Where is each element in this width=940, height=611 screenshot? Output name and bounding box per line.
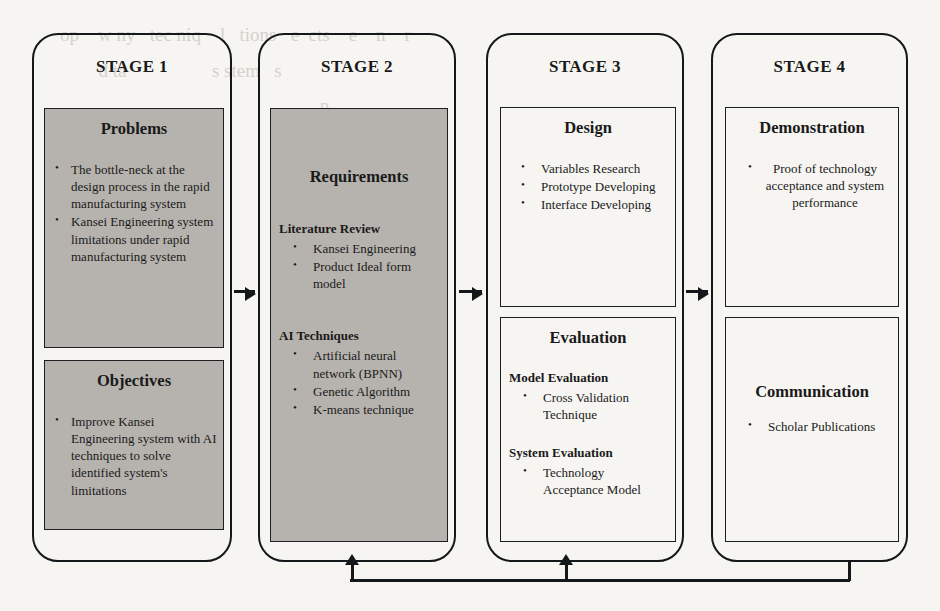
model-evaluation-list: Cross Validation Technique (509, 389, 667, 423)
design-bullet-list: Variables Research Prototype Developing … (507, 160, 669, 213)
evaluation-title: Evaluation (509, 328, 667, 348)
list-item: Variables Research (507, 160, 669, 177)
demonstration-box[interactable]: Demonstration Proof of technology accept… (725, 107, 899, 307)
design-box[interactable]: Design Variables Research Prototype Deve… (500, 107, 676, 307)
list-item: Proof of technology acceptance and syste… (734, 160, 890, 211)
problems-bullet-list: The bottle-neck at the design process in… (51, 161, 217, 265)
objectives-bullet-list: Improve Kansei Engineering system with A… (51, 413, 217, 499)
objectives-title: Objectives (51, 371, 217, 391)
list-item: Scholar Publications (734, 418, 890, 435)
list-item: The bottle-neck at the design process in… (51, 161, 217, 212)
list-item: Interface Developing (507, 196, 669, 213)
literature-review-list: Kansei Engineering Product Ideal form mo… (279, 240, 439, 292)
feedback-line-horizontal (350, 579, 850, 582)
stage-4-container: STAGE 4 Demonstration Proof of technolog… (711, 33, 908, 562)
evaluation-box[interactable]: Evaluation Model Evaluation Cross Valida… (500, 317, 676, 542)
communication-title: Communication (734, 382, 890, 402)
list-item: Technology Acceptance Model (509, 464, 667, 498)
arrow-stage1-to-stage2 (234, 290, 255, 293)
list-item: K-means technique (279, 401, 439, 418)
demonstration-title: Demonstration (734, 118, 890, 138)
stage-3-title: STAGE 3 (488, 57, 682, 77)
objectives-box[interactable]: Objectives Improve Kansei Engineering sy… (44, 360, 224, 530)
literature-review-heading: Literature Review (279, 221, 439, 237)
stage-2-title: STAGE 2 (260, 57, 454, 77)
model-evaluation-heading: Model Evaluation (509, 370, 667, 386)
list-item: Prototype Developing (507, 178, 669, 195)
list-item: Genetic Algorithm (279, 383, 439, 400)
arrow-stage3-to-stage4 (686, 290, 708, 293)
stage-1-container: STAGE 1 Problems The bottle-neck at the … (32, 33, 232, 562)
requirements-title: Requirements (279, 167, 439, 187)
background-bleed-text (50, 566, 216, 588)
demonstration-bullet-list: Proof of technology acceptance and syste… (734, 160, 890, 211)
communication-box[interactable]: Communication Scholar Publications (725, 317, 899, 542)
stage-1-title: STAGE 1 (34, 57, 230, 77)
feedback-arrow-into-stage2 (351, 564, 354, 581)
ai-techniques-list: Artificial neural network (BPNN) Genetic… (279, 347, 439, 418)
feedback-arrow-into-stage3 (565, 564, 568, 581)
feedback-line-right-drop (848, 561, 851, 581)
design-title: Design (507, 118, 669, 138)
stage-2-container: STAGE 2 Requirements Literature Review K… (258, 33, 456, 562)
list-item: Artificial neural network (BPNN) (279, 347, 439, 381)
list-item: Improve Kansei Engineering system with A… (51, 413, 217, 499)
communication-bullet-list: Scholar Publications (734, 418, 890, 435)
list-item: Kansei Engineering (279, 240, 439, 257)
list-item: Product Ideal form model (279, 258, 439, 292)
problems-box[interactable]: Problems The bottle-neck at the design p… (44, 108, 224, 348)
list-item: Cross Validation Technique (509, 389, 667, 423)
arrow-stage2-to-stage3 (459, 290, 482, 293)
ai-techniques-heading: AI Techniques (279, 328, 439, 344)
system-evaluation-list: Technology Acceptance Model (509, 464, 667, 498)
stage-4-title: STAGE 4 (713, 57, 906, 77)
problems-title: Problems (51, 119, 217, 139)
requirements-box[interactable]: Requirements Literature Review Kansei En… (270, 108, 448, 542)
list-item: Kansei Engineering system limitations un… (51, 213, 217, 264)
diagram-canvas: op w ny tec niq l tions e cts e n r d ta… (0, 0, 940, 611)
system-evaluation-heading: System Evaluation (509, 445, 667, 461)
stage-3-container: STAGE 3 Design Variables Research Protot… (486, 33, 684, 562)
